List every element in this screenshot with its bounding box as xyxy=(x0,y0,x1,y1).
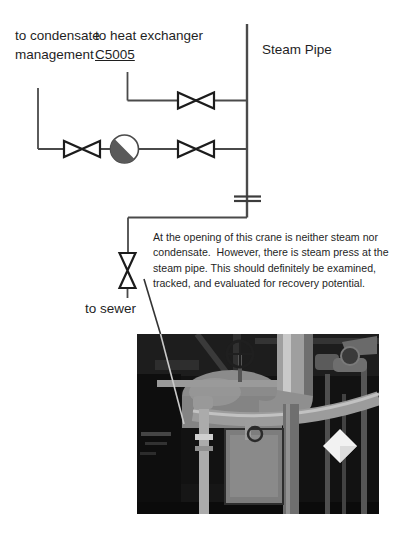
annotation-note: At the opening of this crane is neither … xyxy=(153,230,391,292)
gate-valve-condensate-left-icon xyxy=(64,141,100,157)
drain-valve-icon xyxy=(120,253,136,288)
steam-trap-icon xyxy=(110,135,138,163)
horizontal-pipe-thin xyxy=(157,380,279,387)
process-diagram-page: to condensate management to heat exchang… xyxy=(0,0,397,535)
label-sewer-destination: to sewer xyxy=(85,299,136,318)
label-heat-exchanger-id: C5005 xyxy=(95,45,135,64)
equipment-photo-art xyxy=(137,334,379,514)
equipment-photo xyxy=(137,334,379,514)
label-condensate-destination: to condensate management xyxy=(15,26,107,64)
pipe-cap-icon xyxy=(234,197,261,202)
label-heat-exchanger: to heat exchanger xyxy=(95,26,203,45)
gate-valve-heat-exchanger-icon xyxy=(178,93,214,109)
label-steam-pipe: Steam Pipe xyxy=(262,40,332,59)
gate-valve-condensate-right-icon xyxy=(178,141,214,157)
